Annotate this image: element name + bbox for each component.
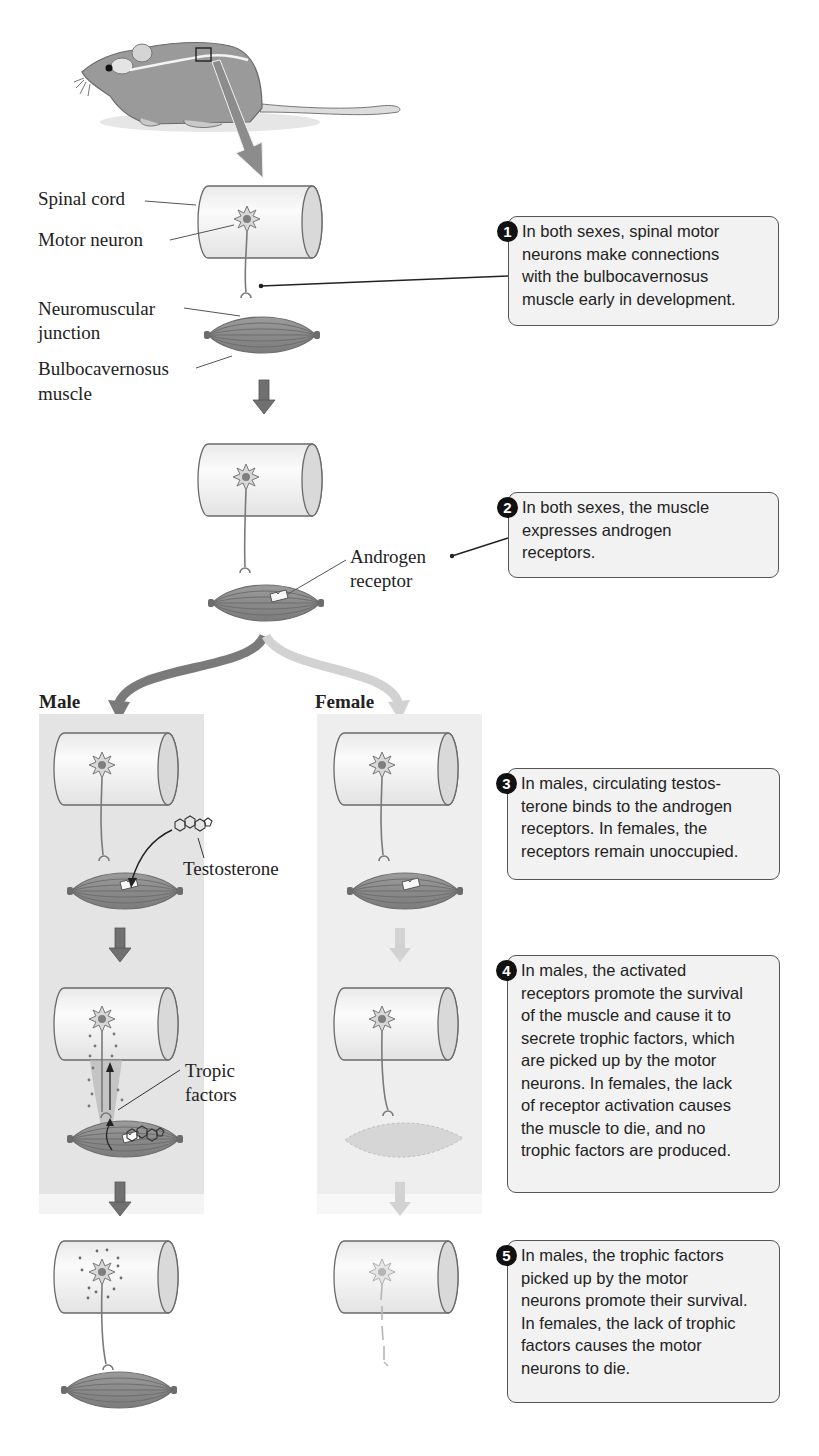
stage-1-artwork (145, 186, 508, 414)
label-testosterone: Testosterone (183, 857, 279, 880)
label-spinal-cord: Spinal cord (38, 187, 125, 210)
step-2-line-2: expresses androgen (522, 519, 772, 542)
step-3-line-4: receptors remain unoccupied. (521, 840, 773, 863)
label-neuromuscular-junction-line1: Neuromuscular (38, 297, 155, 320)
step-4-line-6: neurons. In females, the lack (521, 1072, 773, 1095)
step-1-callout: In both sexes, spinal motor neurons make… (508, 216, 779, 326)
stage-2-artwork (198, 444, 508, 621)
step-1-number-badge: 1 (497, 221, 518, 242)
step-5-number-badge: 5 (496, 1245, 517, 1266)
step-5-line-2: picked up by the motor (521, 1267, 773, 1290)
label-motor-neuron: Motor neuron (38, 228, 143, 251)
step-1-line-4: muscle early in development. (522, 288, 772, 311)
step-4-line-4: secrete trophic factors, which (521, 1027, 773, 1050)
step-4-callout: In males, the activated receptors promot… (507, 955, 780, 1193)
step-5-line-1: In males, the trophic factors (521, 1244, 773, 1267)
step-1-line-3: with the bulbocavernosus (522, 265, 772, 288)
step-2-line-1: In both sexes, the muscle (522, 496, 772, 519)
step-2-number-badge: 2 (497, 497, 518, 518)
step-4-line-8: the muscle to die, and no (521, 1117, 773, 1140)
step-1-line-1: In both sexes, spinal motor (522, 220, 772, 243)
step-3-line-3: receptors. In females, the (521, 817, 773, 840)
label-androgen-receptor-line1: Androgen (350, 545, 426, 568)
step-4-line-7: of receptor activation causes (521, 1094, 773, 1117)
step-4-line-3: of the muscle and cause it to (521, 1004, 773, 1027)
step-3-callout: In males, circulating testos- terone bin… (507, 768, 780, 880)
step-4-line-9: trophic factors are produced. (521, 1139, 773, 1162)
step-2-line-3: receptors. (522, 541, 772, 564)
step-4-number-badge: 4 (496, 960, 517, 981)
label-bulbocavernosus-line1: Bulbocavernosus (38, 357, 169, 380)
female-stage-5 (334, 1241, 458, 1366)
rat-illustration (74, 43, 400, 178)
step-4-line-5: are picked up by the motor (521, 1049, 773, 1072)
step-4-line-1: In males, the activated (521, 959, 773, 982)
label-tropic-factors-line2: factors (185, 1083, 237, 1106)
label-neuromuscular-junction-line2: junction (38, 321, 100, 344)
label-bulbocavernosus-line2: muscle (38, 382, 92, 405)
label-androgen-receptor-line2: receptor (350, 569, 412, 592)
step-5-line-6: neurons to die. (521, 1357, 773, 1380)
step-3-line-2: terone binds to the androgen (521, 795, 773, 818)
label-male: Male (39, 690, 80, 713)
label-female: Female (315, 690, 374, 713)
male-stage-5 (54, 1241, 178, 1408)
step-5-line-4: In females, the lack of trophic (521, 1312, 773, 1335)
step-3-number-badge: 3 (496, 773, 517, 794)
label-tropic-factors-line1: Tropic (185, 1059, 235, 1082)
step-4-line-2: receptors promote the survival (521, 982, 773, 1005)
step-5-line-5: factors causes the motor (521, 1334, 773, 1357)
step-3-line-1: In males, circulating testos- (521, 772, 773, 795)
step-5-callout: In males, the trophic factors picked up … (507, 1240, 780, 1403)
step-1-line-2: neurons make connections (522, 243, 772, 266)
step-5-line-3: neurons promote their survival. (521, 1289, 773, 1312)
step-2-callout: In both sexes, the muscle expresses andr… (508, 492, 779, 578)
